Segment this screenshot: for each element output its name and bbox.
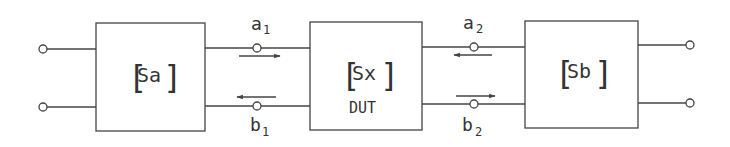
svg-text:b: b	[462, 114, 473, 135]
left-port-top	[39, 45, 96, 53]
svg-text:a: a	[251, 13, 262, 34]
svg-text:]: ]	[163, 58, 182, 96]
svg-text:1: 1	[262, 125, 269, 139]
label-b1: b 1	[250, 114, 269, 139]
label-a2: a 2	[463, 12, 483, 36]
svg-text:Sb: Sb	[567, 59, 591, 83]
left-port-bottom	[39, 103, 96, 111]
cascade-diagram: [ Sa ] [ Sx ] DUT [ Sb ] a 1 b 1 a 2 b 2	[0, 0, 730, 147]
right-port-top	[638, 41, 694, 49]
port-1-bottom-line	[205, 102, 310, 110]
port-2-bottom-line	[422, 100, 525, 108]
port-2-top-line	[422, 43, 525, 51]
svg-text:DUT: DUT	[349, 99, 376, 117]
right-port-bottom	[638, 99, 694, 107]
svg-text:2: 2	[475, 125, 482, 139]
label-a1: a 1	[251, 13, 270, 37]
svg-text:Sa: Sa	[137, 63, 161, 87]
svg-text:]: ]	[380, 56, 399, 94]
svg-text:Sx: Sx	[352, 61, 376, 85]
svg-text:b: b	[250, 114, 261, 135]
svg-text:a: a	[463, 12, 474, 33]
svg-text:1: 1	[263, 23, 270, 37]
port-1-top-line	[205, 44, 310, 52]
svg-text:2: 2	[476, 22, 483, 36]
svg-text:]: ]	[594, 54, 613, 92]
label-b2: b 2	[462, 114, 482, 139]
